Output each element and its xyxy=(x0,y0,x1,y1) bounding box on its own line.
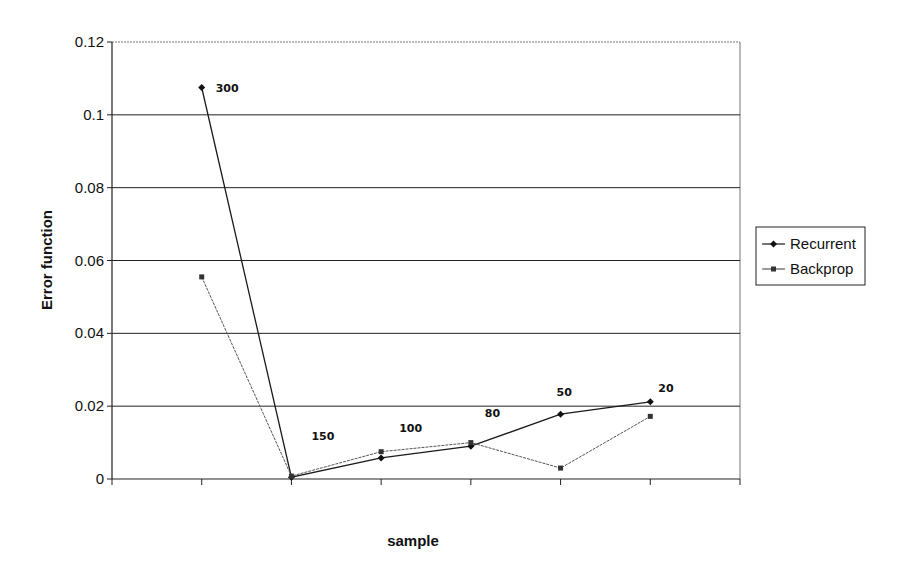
square-marker-icon xyxy=(558,466,563,471)
square-marker-icon xyxy=(648,414,653,419)
square-marker-icon xyxy=(771,267,776,272)
y-tick-label: 0.06 xyxy=(75,252,104,269)
y-axis-ticks: 00.020.040.060.080.10.12 xyxy=(75,33,112,487)
y-axis-title: Error function xyxy=(38,210,55,310)
square-marker-icon xyxy=(289,474,294,479)
y-tick-label: 0 xyxy=(96,470,104,487)
y-tick-label: 0.02 xyxy=(75,397,104,414)
point-label: 100 xyxy=(399,422,422,435)
x-axis-title: sample xyxy=(387,532,439,549)
line-chart: 00.020.040.060.080.10.12 300150100805020… xyxy=(0,0,904,583)
square-marker-icon xyxy=(468,440,473,445)
svg-text:Backprop: Backprop xyxy=(790,260,853,277)
y-tick-label: 0.12 xyxy=(75,33,104,50)
point-label: 20 xyxy=(658,382,674,395)
plot-area: 00.020.040.060.080.10.12 300150100805020 xyxy=(75,33,740,487)
square-marker-icon xyxy=(379,449,384,454)
y-tick-label: 0.1 xyxy=(83,106,104,123)
legend: Recurrent Backprop xyxy=(756,227,865,285)
point-label: 80 xyxy=(485,407,501,420)
point-label: 50 xyxy=(557,386,573,399)
y-tick-label: 0.04 xyxy=(75,324,104,341)
point-label: 150 xyxy=(311,430,334,443)
x-axis-ticks xyxy=(112,479,740,485)
square-marker-icon xyxy=(199,274,204,279)
svg-text:Recurrent: Recurrent xyxy=(790,235,857,252)
y-tick-label: 0.08 xyxy=(75,179,104,196)
point-label: 300 xyxy=(216,82,239,95)
